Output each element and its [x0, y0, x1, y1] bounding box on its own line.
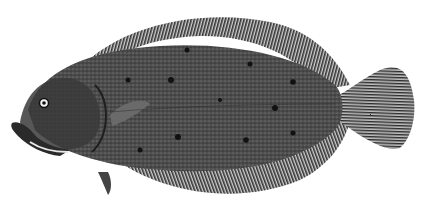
pelvic-fin	[98, 172, 111, 195]
flounder-drawing	[0, 0, 430, 213]
fish-illustration	[0, 0, 430, 213]
